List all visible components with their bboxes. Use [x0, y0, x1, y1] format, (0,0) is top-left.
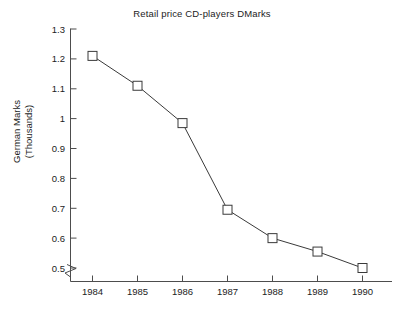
x-tick-label: 1984: [82, 286, 103, 297]
x-tick-label: 1990: [352, 286, 373, 297]
data-point-marker: [223, 205, 232, 214]
data-point-marker: [133, 81, 142, 90]
y-tick-label: 0.5: [52, 263, 65, 274]
y-axis: 1.3 1.2 1.1 1 0.9 0.8 0.7 0.6 0.5: [52, 24, 77, 282]
chart-figure: Retail price CD-players DMarks German Ma…: [0, 0, 404, 326]
data-point-marker: [313, 247, 322, 256]
y-tick-label: 0.9: [52, 143, 65, 154]
x-tick-label: 1987: [217, 286, 238, 297]
y-tick-label: 0.7: [52, 203, 65, 214]
y-tick-label: 1.3: [52, 24, 65, 35]
x-axis-ticks: [93, 276, 363, 282]
data-point-marker: [178, 119, 187, 128]
x-tick-label: 1988: [262, 286, 283, 297]
data-point-marker: [88, 51, 97, 60]
y-tick-label: 0.6: [52, 233, 65, 244]
x-tick-label: 1989: [307, 286, 328, 297]
x-tick-label: 1985: [127, 286, 148, 297]
y-tick-label: 1.1: [52, 83, 65, 94]
y-axis-ticks: [71, 29, 77, 268]
data-series-retail-price: [88, 51, 367, 272]
x-axis-tick-labels: 1984 1985 1986 1987 1988 1989 1990: [82, 286, 373, 297]
plot-area: 1.3 1.2 1.1 1 0.9 0.8 0.7 0.6 0.5: [0, 0, 404, 326]
x-axis: 1984 1985 1986 1987 1988 1989 1990: [71, 276, 393, 298]
y-tick-label: 1: [60, 113, 65, 124]
series-markers: [88, 51, 367, 272]
data-point-marker: [268, 234, 277, 243]
y-tick-label: 1.2: [52, 53, 65, 64]
y-tick-label: 0.8: [52, 173, 65, 184]
y-axis-tick-labels: 1.3 1.2 1.1 1 0.9 0.8 0.7 0.6 0.5: [52, 24, 65, 274]
x-tick-label: 1986: [172, 286, 193, 297]
data-point-marker: [358, 264, 367, 273]
